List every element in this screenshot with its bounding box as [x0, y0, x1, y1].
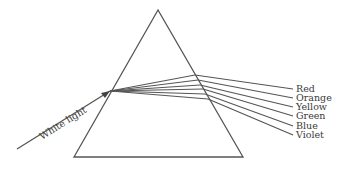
ray-yellow: [200, 85, 293, 107]
white-light-label: White light: [37, 104, 88, 142]
prism-diagram: RedOrangeYellowGreenBlueViolet White lig…: [0, 0, 342, 172]
label-violet: Violet: [295, 129, 324, 140]
spectrum-labels: RedOrangeYellowGreenBlueViolet: [295, 83, 332, 140]
refracted-rays-inside: [110, 75, 208, 99]
ray-blue: [205, 94, 293, 126]
dispersed-rays: [195, 75, 293, 135]
